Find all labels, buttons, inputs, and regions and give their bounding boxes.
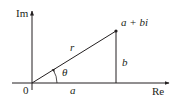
complex-plane-diagram: Im a + bi r θ b 0 a Re (0, 0, 175, 100)
angle-label: θ (62, 66, 68, 78)
angle-arc (53, 70, 57, 83)
radius-label: r (70, 41, 75, 53)
point-a-plus-bi (114, 29, 117, 32)
imaginary-axis-label: Im (16, 7, 29, 19)
real-axis-label: Re (152, 85, 164, 97)
point-label: a + bi (121, 16, 148, 28)
radius-line (32, 31, 116, 83)
horizontal-segment-label: a (70, 84, 76, 96)
vertical-segment-label: b (122, 56, 128, 68)
origin-label: 0 (23, 84, 29, 96)
